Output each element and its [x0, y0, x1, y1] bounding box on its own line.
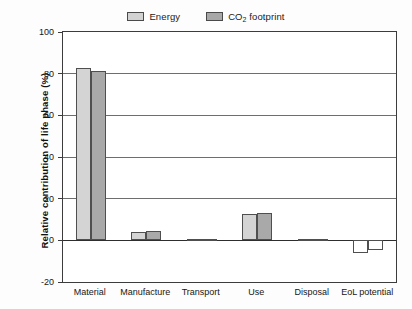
chart-legend: Energy CO2 footprint: [0, 11, 412, 22]
bar-material-co2: [91, 71, 106, 241]
y-axis-tick: [58, 73, 63, 74]
y-axis-tick: [58, 240, 63, 241]
bar-disposal-co2: [313, 239, 328, 241]
chart-figure: Energy CO2 footprint Relative contributi…: [0, 0, 412, 309]
bar-disposal-energy: [298, 239, 313, 241]
y-axis-tick-label: -20: [41, 277, 54, 287]
bar-manufacture-co2: [146, 231, 161, 241]
legend-label-co2-prefix: CO: [228, 11, 242, 22]
legend-item-co2-footprint: CO2 footprint: [206, 11, 284, 22]
gridline: [63, 157, 396, 158]
bar-transport-co2: [202, 239, 217, 241]
gridline: [63, 198, 396, 199]
y-axis-tick: [58, 115, 63, 116]
y-axis-tick: [58, 282, 63, 283]
bar-transport-energy: [187, 239, 202, 241]
y-axis-tick-label: 80: [44, 69, 54, 79]
bar-use-co2: [257, 213, 272, 240]
legend-item-energy: Energy: [127, 11, 180, 22]
bar-manufacture-energy: [131, 232, 146, 240]
y-axis-tick-label: 40: [44, 152, 54, 162]
x-axis-label-transport: Transport: [182, 287, 220, 297]
x-axis-label-eol-potential: EoL potential: [341, 287, 393, 297]
y-axis-tick: [58, 32, 63, 33]
y-axis-tick-label: 60: [44, 110, 54, 120]
y-axis-tick: [58, 198, 63, 199]
y-axis-tick-label: 100: [39, 27, 54, 37]
bar-eol-potential-energy: [353, 240, 368, 253]
y-axis-tick: [58, 157, 63, 158]
legend-swatch-energy-icon: [127, 12, 144, 21]
legend-swatch-co2-icon: [206, 12, 223, 21]
gridline: [63, 73, 396, 74]
legend-label-energy: Energy: [149, 11, 180, 22]
bar-use-energy: [242, 214, 257, 240]
x-axis-label-disposal: Disposal: [294, 287, 329, 297]
legend-label-co2-footprint: CO2 footprint: [228, 11, 284, 22]
y-axis-tick-label: 20: [44, 194, 54, 204]
bar-material-energy: [76, 68, 91, 240]
x-axis-label-manufacture: Manufacture: [120, 287, 170, 297]
plot-inner: [63, 32, 396, 282]
x-axis-label-use: Use: [248, 287, 264, 297]
gridline: [63, 115, 396, 116]
plot-area: 100806040200-20: [62, 31, 397, 283]
legend-label-co2-suffix: footprint: [247, 11, 285, 22]
bar-eol-potential-co2: [368, 240, 383, 249]
zero-baseline: [63, 240, 396, 241]
y-axis-tick-label: 0: [49, 235, 54, 245]
x-axis-label-material: Material: [74, 287, 106, 297]
legend-label-co2-subscript: 2: [243, 16, 247, 23]
